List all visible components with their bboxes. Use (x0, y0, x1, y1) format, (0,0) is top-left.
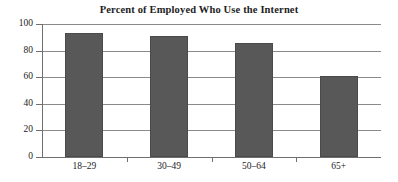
x-axis-tick (127, 157, 128, 162)
x-axis-category-label: 30–49 (127, 161, 212, 171)
plot-area (42, 24, 381, 157)
y-axis-tick-label: 100 (0, 18, 33, 28)
x-axis-category-label: 65+ (296, 161, 381, 171)
y-axis-tick-label: 80 (0, 45, 33, 55)
x-axis-category-label: 50–64 (211, 161, 296, 171)
bar (235, 43, 273, 157)
y-axis-tick-label: 60 (0, 71, 33, 81)
bar (150, 36, 188, 157)
bar-chart-figure: Percent of Employed Who Use the Internet… (0, 0, 398, 182)
y-axis-tick-label: 0 (0, 151, 33, 161)
chart-title: Percent of Employed Who Use the Internet (0, 4, 398, 15)
y-axis-tick-label: 20 (0, 124, 33, 134)
y-axis-tick-label: 40 (0, 98, 33, 108)
bar (320, 76, 358, 157)
x-axis-tick (212, 157, 213, 162)
x-axis-category-label: 18–29 (42, 161, 127, 171)
bar (65, 33, 103, 157)
x-axis-tick (296, 157, 297, 162)
